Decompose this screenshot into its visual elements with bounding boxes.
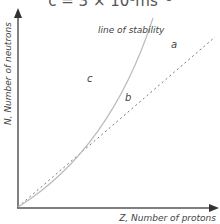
nuclear-stability-diagram: line of stability a b c Z, Number of pro… xyxy=(0,0,220,224)
x-axis-arrow-icon xyxy=(209,204,219,212)
region-c-label: c xyxy=(87,73,93,84)
y-axis-arrow-icon xyxy=(14,8,22,18)
region-a-label: a xyxy=(171,39,177,50)
n-equals-z-line xyxy=(18,37,215,207)
x-axis-label: Z, Number of protons xyxy=(118,213,216,223)
region-b-label: b xyxy=(125,92,131,103)
stability-label: line of stability xyxy=(98,25,165,35)
y-axis-label: N, Number of neutrons xyxy=(3,22,13,125)
stability-curve xyxy=(18,18,153,207)
